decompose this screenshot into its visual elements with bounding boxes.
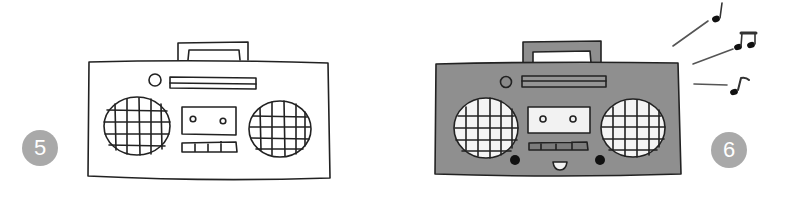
boombox-outline [88, 42, 330, 180]
boombox-colored [435, 41, 681, 176]
buttons [182, 142, 237, 152]
music-notes [673, 3, 756, 96]
right-speaker [601, 99, 665, 157]
right-speaker [249, 101, 311, 157]
step-number: 5 [34, 135, 46, 161]
knob [501, 77, 512, 88]
step-badge-5: 5 [22, 130, 58, 166]
cassette-window [528, 107, 590, 133]
step-number: 6 [723, 137, 735, 163]
left-eye [510, 155, 520, 165]
beamed-notes-icon [733, 33, 756, 51]
boombox-drawing-canvas [0, 0, 795, 200]
body [88, 61, 330, 180]
right-eye [595, 155, 605, 165]
left-speaker [454, 98, 518, 158]
eighth-note-icon [729, 78, 749, 96]
step-badge-6: 6 [711, 132, 747, 168]
buttons [529, 142, 588, 150]
left-speaker [104, 97, 170, 155]
handle [523, 41, 601, 63]
smile [553, 162, 567, 170]
music-note-icon [711, 3, 722, 23]
knob [149, 74, 161, 86]
